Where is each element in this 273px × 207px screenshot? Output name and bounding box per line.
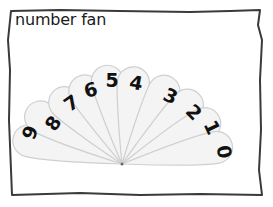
number-fan-card: 9876543210 number fan: [0, 0, 273, 207]
fan-pivot-pin: [121, 163, 124, 166]
number-fan: 9876543210: [9, 63, 236, 180]
page-title: number fan: [15, 10, 106, 29]
number-fan-illustration: 9876543210: [0, 0, 273, 207]
fan-number-5: 5: [105, 69, 118, 91]
fan-number-0: 0: [212, 143, 236, 160]
